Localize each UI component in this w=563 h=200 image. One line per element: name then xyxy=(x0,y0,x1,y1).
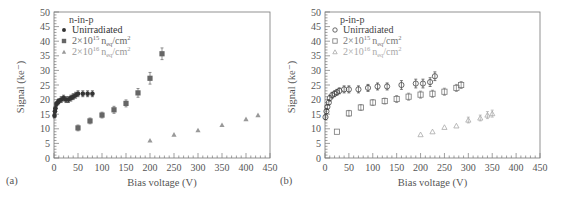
data-point xyxy=(99,112,104,117)
legend: n-in-pUnirradiated2×1015neq/cm22×1016neq… xyxy=(62,14,131,58)
y-tick-label: 0 xyxy=(45,153,50,164)
y-tick-label: 0 xyxy=(316,153,321,164)
x-axis-label: Bias voltage (V) xyxy=(127,177,197,189)
x-tick-label: 0 xyxy=(52,162,57,173)
series-2 xyxy=(418,110,495,137)
legend-marker xyxy=(62,39,66,43)
y-tick-label: 50 xyxy=(311,7,321,18)
legend-marker xyxy=(62,28,66,32)
legend: p-in-pUnirradiated2×1015neq/cm22×1016neq… xyxy=(333,14,402,58)
y-tick-label: 35 xyxy=(40,50,50,61)
x-tick-label: 350 xyxy=(485,162,500,173)
data-point xyxy=(442,125,447,130)
data-point xyxy=(76,91,81,96)
y-tick-label: 25 xyxy=(40,80,50,91)
x-tick-label: 300 xyxy=(461,162,476,173)
x-tick-label: 400 xyxy=(509,162,524,173)
data-point xyxy=(195,128,200,133)
series-2 xyxy=(147,112,260,142)
x-tick-label: 300 xyxy=(191,162,206,173)
x-tick-label: 250 xyxy=(437,162,452,173)
y-tick-label: 20 xyxy=(311,94,321,105)
panel-label: (b) xyxy=(280,175,293,187)
y-axis-label: Signal (ke⁻) xyxy=(15,60,27,113)
x-tick-label: 450 xyxy=(263,162,278,173)
data-point xyxy=(219,122,224,127)
data-point xyxy=(147,138,152,143)
data-point xyxy=(334,129,339,134)
y-tick-label: 15 xyxy=(311,109,321,120)
y-tick-label: 10 xyxy=(311,123,321,134)
y-tick-label: 20 xyxy=(40,94,50,105)
y-tick-label: 45 xyxy=(40,21,50,32)
data-point xyxy=(171,132,176,137)
y-tick-label: 50 xyxy=(40,7,50,18)
y-tick-label: 35 xyxy=(311,50,321,61)
y-tick-label: 10 xyxy=(40,123,50,134)
x-tick-label: 0 xyxy=(323,162,328,173)
x-tick-label: 350 xyxy=(215,162,230,173)
x-tick-label: 400 xyxy=(239,162,254,173)
data-point xyxy=(52,113,57,118)
chart-panel-a: 0501001502002503003504004500510152025303… xyxy=(6,7,278,190)
x-tick-label: 150 xyxy=(119,162,134,173)
x-tick-label: 50 xyxy=(73,162,83,173)
figure: 0501001502002503003504004500510152025303… xyxy=(0,0,563,200)
data-point xyxy=(159,51,164,56)
y-tick-label: 40 xyxy=(311,36,321,47)
data-point xyxy=(418,132,423,137)
series-1 xyxy=(75,48,164,131)
x-tick-label: 200 xyxy=(413,162,428,173)
legend-marker xyxy=(62,50,66,54)
data-point xyxy=(135,90,140,95)
legend-entry: 2×1016neq/cm2 xyxy=(72,45,131,58)
y-tick-label: 40 xyxy=(40,36,50,47)
y-tick-label: 25 xyxy=(311,80,321,91)
y-tick-label: 45 xyxy=(311,21,321,32)
data-point xyxy=(90,91,95,96)
x-axis-label: Bias voltage (V) xyxy=(398,177,468,189)
x-tick-label: 100 xyxy=(95,162,110,173)
data-point xyxy=(87,118,92,123)
y-axis-label: Signal (ke⁻) xyxy=(286,60,298,113)
data-point xyxy=(255,112,260,117)
y-tick-label: 5 xyxy=(316,138,321,149)
x-tick-label: 250 xyxy=(167,162,182,173)
data-point xyxy=(111,107,116,112)
data-point xyxy=(123,101,128,106)
data-point xyxy=(147,76,152,81)
data-point xyxy=(243,117,248,122)
legend-marker xyxy=(333,50,337,54)
data-point xyxy=(85,91,90,96)
data-point xyxy=(454,123,459,128)
y-tick-label: 5 xyxy=(45,138,50,149)
legend-entry: 2×1016neq/cm2 xyxy=(343,45,402,58)
legend-marker xyxy=(333,28,337,32)
y-tick-label: 15 xyxy=(40,109,50,120)
data-point xyxy=(75,125,80,130)
panel-label: (a) xyxy=(6,175,18,187)
y-tick-label: 30 xyxy=(40,65,50,76)
x-tick-label: 150 xyxy=(389,162,404,173)
legend-marker xyxy=(333,39,337,43)
x-tick-label: 100 xyxy=(365,162,380,173)
x-tick-label: 450 xyxy=(533,162,548,173)
x-tick-label: 50 xyxy=(344,162,354,173)
data-point xyxy=(430,129,435,134)
y-tick-label: 30 xyxy=(311,65,321,76)
series-1 xyxy=(334,81,463,134)
data-point xyxy=(80,91,85,96)
x-tick-label: 200 xyxy=(143,162,158,173)
chart-panel-b: 0501001502002503003504004500510152025303… xyxy=(280,7,548,190)
data-point xyxy=(53,106,58,111)
